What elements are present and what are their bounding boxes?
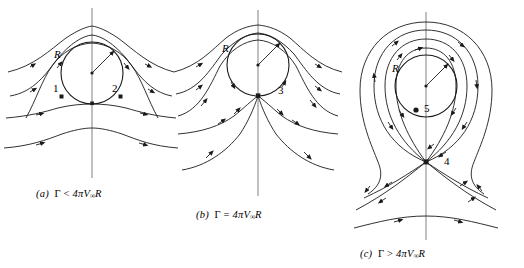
radius-label-c: R bbox=[392, 62, 399, 74]
stagnation-point-2 bbox=[119, 95, 123, 99]
radius-arrow-a bbox=[92, 51, 114, 73]
caption-b-relation: = bbox=[224, 209, 230, 220]
panel-c-diagram bbox=[330, 0, 524, 268]
caption-c: (c) Γ > 4πV∞R bbox=[360, 248, 425, 260]
panel-a-diagram bbox=[0, 0, 180, 200]
caption-c-suffix: R bbox=[418, 248, 425, 259]
stagnation-point-4 bbox=[424, 159, 429, 164]
stagnation-label-5: 5 bbox=[424, 102, 430, 114]
streamlines-a bbox=[4, 26, 178, 148]
caption-c-expr: 4πV bbox=[396, 248, 414, 259]
caption-a-expr: 4πV bbox=[73, 188, 91, 199]
caption-a-relation: < bbox=[64, 188, 70, 199]
stagnation-label-3: 3 bbox=[278, 84, 284, 96]
caption-c-gamma: Γ bbox=[378, 248, 384, 259]
caption-c-relation: > bbox=[387, 248, 393, 259]
stagnation-point-1 bbox=[60, 95, 64, 99]
radius-arrow-b bbox=[258, 43, 280, 65]
caption-b-gamma: Γ bbox=[215, 209, 221, 220]
stagnation-label-1: 1 bbox=[53, 82, 59, 94]
radius-arrow-c bbox=[426, 64, 448, 86]
caption-c-panel: (c) bbox=[360, 248, 372, 259]
caption-a-panel: (a) bbox=[36, 188, 49, 199]
radius-label-a: R bbox=[54, 48, 61, 60]
caption-b-expr: 4πV bbox=[233, 209, 251, 220]
caption-a-gamma: Γ bbox=[55, 188, 61, 199]
stagnation-point-3 bbox=[256, 93, 261, 98]
panel-b-diagram bbox=[168, 0, 348, 222]
stagnation-label-2: 2 bbox=[112, 82, 118, 94]
caption-b-panel: (b) bbox=[196, 209, 209, 220]
caption-a-suffix: R bbox=[95, 188, 102, 199]
caption-b-suffix: R bbox=[255, 209, 262, 220]
figure-lifting-flow-over-cylinder: R 1 2 (a) Γ < 4πV∞R bbox=[0, 0, 524, 268]
caption-a: (a) Γ < 4πV∞R bbox=[36, 188, 102, 200]
radius-label-b: R bbox=[222, 42, 229, 54]
stagnation-label-4: 4 bbox=[444, 155, 450, 167]
caption-b: (b) Γ = 4πV∞R bbox=[196, 209, 262, 221]
stagnation-point-a-bottom bbox=[90, 102, 94, 106]
stagnation-point-5 bbox=[413, 107, 418, 112]
